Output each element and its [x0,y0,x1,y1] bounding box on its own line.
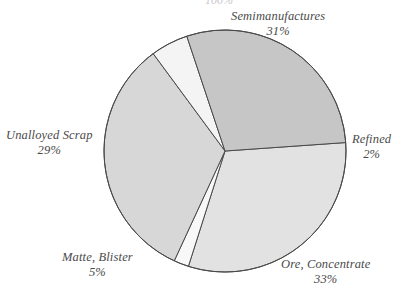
pie-label-ore-concentrate-name: Ore, Concentrate [281,257,370,272]
pie-label-matte-blister-value: 5% [62,265,133,280]
pie-label-refined: Refined 2% [352,132,391,161]
pie-label-ore-concentrate: Ore, Concentrate 33% [281,257,370,286]
pie-label-matte-blister: Matte, Blister 5% [62,250,133,279]
pie-chart-figure: 100% Semimanufactures 31% Refined 2% Ore… [0,0,407,300]
pie-label-matte-blister-name: Matte, Blister [62,250,133,265]
pie-label-unalloyed-scrap: Unalloyed Scrap 29% [6,128,93,157]
pie-label-refined-name: Refined [352,132,391,147]
pie-label-unalloyed-scrap-value: 29% [6,143,93,158]
pie-label-unalloyed-scrap-name: Unalloyed Scrap [6,128,93,143]
pie-label-refined-value: 2% [352,147,391,162]
pie-label-semimanufactures-value: 31% [231,24,325,39]
pie-slice-group [104,30,346,272]
pie-label-semimanufactures: Semimanufactures 31% [231,9,325,38]
pie-label-ore-concentrate-value: 33% [281,272,370,287]
pie-label-semimanufactures-name: Semimanufactures [231,9,325,24]
